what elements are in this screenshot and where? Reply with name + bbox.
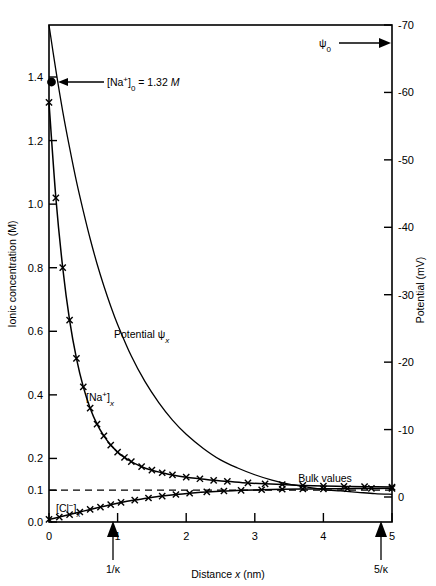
x-axis-title-text: Distance [191,568,235,580]
right-tick-label: -20 [398,356,414,368]
x-tick-label: 0 [46,530,52,542]
na-zero-eq: = 1.32 [135,76,170,88]
right-tick-label: -50 [398,154,414,166]
psi-zero-glyph: ψ [319,37,327,49]
data-marker [139,464,145,470]
kappa-1-arrow-head [107,521,119,537]
y-axis-title: Ionic concentration (M) [6,221,18,328]
right-tick-label: -60 [398,86,414,98]
na-curve-sub: x [109,399,115,408]
left-tick-label: 1.4 [28,71,43,83]
right-tick-label: 0 [398,491,404,503]
psi-zero-label: ψ0 [319,37,332,54]
potential-curve-label-text: Potential ψ [114,328,165,340]
psi-zero-sub: 0 [327,45,332,54]
chart-svg: 0.00.10.20.40.60.81.01.21.4 0-10-20-30-4… [0,0,436,586]
right-tick-label: -10 [398,424,414,436]
na-zero-open: [Na [107,76,124,88]
left-tick-label: 0.0 [28,516,43,528]
kappa-5-label: 5/κ [374,563,389,575]
x-axis-title: Distance x (nm) [191,568,265,580]
x-axis-ticks: 012345 [46,513,395,542]
kappa-5-arrow-head [375,521,387,537]
curve-sodium [49,102,392,487]
right-tick-label: -70 [398,19,414,31]
psi-zero-annotation: ψ0 [319,37,391,54]
data-marker [121,454,127,460]
kappa-5-num: 5/ [374,563,383,575]
na-zero-arrow-head [58,78,68,86]
left-tick-label: 1.2 [28,135,43,147]
left-tick-label: 0.6 [28,325,43,337]
kappa-5-marker: 5/κ [374,521,389,575]
y2-axis-title: Potential (mV) [414,257,426,324]
psi-zero-arrow-head [379,38,391,48]
data-marker [94,421,100,427]
kappa-1-glyph: κ [115,563,121,575]
x-axis-title-unit: (nm) [240,568,265,580]
left-tick-label: 0.2 [28,452,43,464]
na-zero-annotation: [Na+]0 = 1.32 M [47,75,180,93]
data-marker [101,433,107,439]
left-tick-label: 0.4 [28,389,43,401]
na-zero-label: [Na+]0 = 1.32 M [107,75,180,93]
right-tick-label: -30 [398,289,414,301]
x-tick-label: 5 [389,530,395,542]
na-zero-unit: M [171,76,180,88]
na-curve-open: [Na [86,391,103,403]
na-zero-point-marker [47,78,56,87]
data-markers [46,99,395,522]
x-tick-label: 3 [252,530,258,542]
right-axis-ticks: 0-10-20-30-40-50-60-70 [384,19,414,503]
data-marker [108,442,114,448]
potential-curve-label: Potential ψx [114,328,170,345]
bulk-values-label: Bulk values [298,472,352,484]
data-curves [49,25,392,519]
potential-curve-label-sub: x [164,336,170,345]
left-tick-label: 1.0 [28,198,43,210]
x-tick-label: 4 [320,530,326,542]
curve-chloride [49,488,392,519]
cl-curve-open: [Cl [56,502,69,514]
chart-figure: 0.00.10.20.40.60.81.01.21.4 0-10-20-30-4… [0,0,436,586]
curve-potential [49,25,392,494]
left-tick-label: 0.1 [28,484,43,496]
data-marker [115,449,121,455]
right-tick-label: -40 [398,221,414,233]
x-tick-label: 2 [183,530,189,542]
data-marker [128,459,134,465]
left-axis-ticks: 0.00.10.20.40.60.81.01.21.4 [28,71,57,528]
kappa-1-num: 1/ [106,563,115,575]
na-curve-label: [Na+]x [86,390,115,408]
left-tick-label: 0.8 [28,262,43,274]
kappa-5-glyph: κ [383,563,389,575]
kappa-1-label: 1/κ [106,563,121,575]
